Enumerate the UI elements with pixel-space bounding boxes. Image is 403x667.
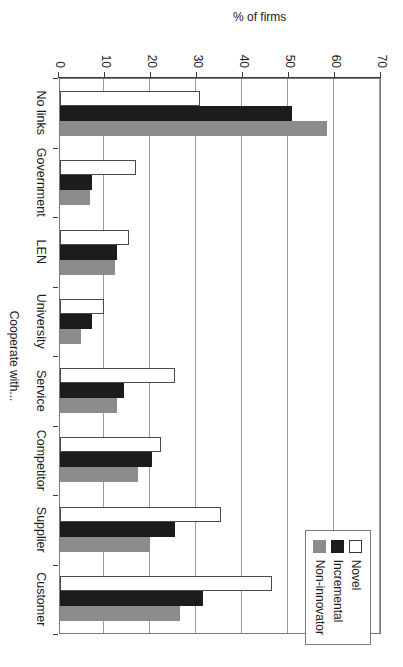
category-axis-tick [53,148,58,149]
legend-item: Novel [349,540,363,635]
bar [60,260,115,275]
category-axis-label: No links [34,91,48,135]
bar [60,522,175,537]
legend-swatch-icon [314,540,327,553]
legend-swatch-icon [350,540,363,553]
bar [60,314,92,329]
category-axis-label: Service [34,370,48,412]
bar [60,467,138,482]
bar [60,591,203,606]
bar-chart-figure: 010203040506070 % of firms No linksGover… [0,0,403,667]
category-axis-label: Competitor [34,430,48,491]
category-axis-label: Government [34,148,48,217]
value-axis-tick-label: 70 [375,40,389,68]
value-axis-title: % of firms [233,10,286,24]
legend-item: Non-innovator [313,540,327,635]
bar [60,507,221,522]
bar-group [60,356,380,425]
bar [60,299,104,314]
category-axis-tick [53,565,58,566]
bar [60,190,90,205]
bar [60,121,327,136]
bar [60,91,200,106]
value-axis-tick-label: 20 [145,40,159,68]
bar [60,160,136,175]
category-axis-title: Cooperate with... [7,78,21,634]
category-axis-tick [53,78,58,79]
bar-group [60,425,380,494]
category-axis-tick [53,356,58,357]
bar [60,106,292,121]
bar [60,230,129,245]
bar [60,606,180,621]
category-axis-tick [53,634,58,635]
rotated-figure-wrapper: 010203040506070 % of firms No linksGover… [0,0,403,667]
bar [60,175,92,190]
category-axis-label: Supplier [34,507,48,553]
bar [60,576,272,591]
bar [60,452,152,467]
value-axis-tick-label: 40 [237,40,251,68]
category-axis-tick [53,495,58,496]
value-axis-tick-label: 30 [191,40,205,68]
category-axis-tick [53,287,58,288]
category-axis-tick [53,217,58,218]
bar [60,437,161,452]
bar-group [60,148,380,217]
bar-group [60,287,380,356]
value-axis-tick-label: 60 [329,40,343,68]
bar [60,398,118,413]
legend-item-label: Non-innovator [313,560,327,635]
value-axis-tick-label: 50 [283,40,297,68]
bar-group [60,218,380,287]
legend-item-label: Incremental [331,560,345,623]
category-axis-label: Customer [34,572,48,626]
legend: NovelIncrementalNon-innovator [305,530,371,645]
value-axis-tick-label: 10 [99,40,113,68]
bar [60,537,150,552]
category-axis-tick [53,426,58,427]
bar [60,368,175,383]
bar [60,383,124,398]
bar [60,245,118,260]
legend-item-label: Novel [349,560,363,591]
legend-swatch-icon [332,540,345,553]
category-axis-label: LEN [34,240,48,264]
category-axis-label: University [34,294,48,349]
bar-group [60,79,380,148]
value-axis-tick-label: 0 [53,40,67,68]
legend-item: Incremental [331,540,345,635]
bar [60,329,81,344]
